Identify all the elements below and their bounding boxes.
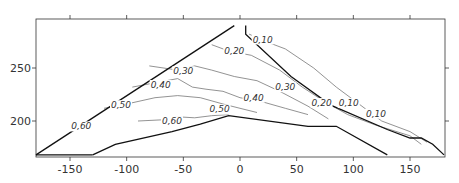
contour-label: 0,30 xyxy=(173,66,193,76)
contour-label: 0,60 xyxy=(71,121,91,131)
y-tick-label: 200 xyxy=(10,115,31,128)
boundary-lines xyxy=(36,26,444,155)
x-axis: -150-100-50050100150 xyxy=(58,15,421,176)
contour-label: 0,10 xyxy=(366,109,386,119)
x-tick-label: -50 xyxy=(174,163,192,176)
x-tick-label: 150 xyxy=(400,163,421,176)
boundary-lower xyxy=(93,116,388,155)
contour-label: 0,10 xyxy=(339,98,359,108)
contour-label: 0,40 xyxy=(151,80,171,90)
contour-label: 0,20 xyxy=(312,98,332,108)
contour-label: 0,10 xyxy=(253,35,273,45)
boundary-upper-left xyxy=(36,26,234,155)
contour-label: 0,60 xyxy=(162,116,182,126)
contour-label: 0,20 xyxy=(224,46,244,56)
x-tick-label: 100 xyxy=(343,163,364,176)
x-tick-label: 50 xyxy=(290,163,304,176)
contour-label: 0,30 xyxy=(275,82,295,92)
contour-chart: -150-100-50050100150 200250 0,100,200,30… xyxy=(0,0,459,183)
x-tick-label: -150 xyxy=(58,163,83,176)
contour-label: 0,50 xyxy=(210,104,230,114)
x-tick-label: 0 xyxy=(237,163,244,176)
x-tick-label: -100 xyxy=(114,163,139,176)
contour-label: 0,50 xyxy=(111,100,131,110)
contour-labels: 0,100,200,300,400,500,600,600,500,400,30… xyxy=(70,35,387,132)
y-tick-label: 250 xyxy=(10,62,31,75)
contour-label: 0,40 xyxy=(244,93,264,103)
plot-frame xyxy=(36,19,445,157)
